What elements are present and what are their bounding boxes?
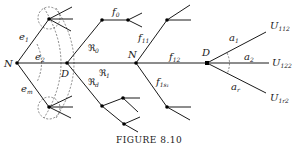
node-f0 bbox=[126, 18, 130, 22]
label-N-left: N bbox=[3, 58, 14, 69]
node-D-left bbox=[65, 61, 69, 65]
label-U1r2: U1r2 bbox=[270, 92, 289, 104]
tree-diagram: N D N D e1 e2 em ℜ0 ℜ1 ℜd f0 f11 f12 f1s… bbox=[0, 0, 292, 147]
label-Rd: ℜd bbox=[88, 77, 99, 88]
label-f12: f12 bbox=[168, 51, 181, 63]
node-N-mid bbox=[134, 61, 138, 65]
label-a1: a1 bbox=[229, 32, 239, 44]
node-Rd bbox=[100, 104, 104, 108]
label-U112: U112 bbox=[270, 20, 290, 32]
label-D-left: D bbox=[60, 68, 69, 79]
node-D-right bbox=[205, 61, 209, 65]
edges bbox=[17, 5, 269, 132]
label-D-right: D bbox=[201, 47, 210, 58]
label-N-mid: N bbox=[127, 49, 138, 60]
node-R0 bbox=[100, 18, 104, 22]
figure-caption: FIGURE 8.10 bbox=[116, 135, 182, 145]
label-R1: ℜ1 bbox=[99, 68, 110, 79]
label-R0: ℜ0 bbox=[88, 43, 99, 54]
label-e1: e1 bbox=[19, 31, 29, 43]
node-bottom bbox=[47, 105, 51, 109]
node-N-left bbox=[15, 61, 19, 65]
label-f1s1: f1s₁ bbox=[155, 76, 169, 88]
node-Rd-a bbox=[121, 96, 125, 100]
label-f11: f11 bbox=[137, 32, 149, 44]
label-U122: U122 bbox=[272, 57, 292, 69]
label-f0: f0 bbox=[111, 6, 120, 18]
node-Rd-b bbox=[122, 122, 126, 126]
node-f1s1 bbox=[165, 105, 169, 109]
node-top bbox=[47, 17, 51, 21]
nodes bbox=[15, 17, 209, 126]
label-ar: ar bbox=[231, 81, 241, 93]
label-em: em bbox=[21, 83, 33, 95]
node-f11 bbox=[165, 18, 169, 22]
label-a2: a2 bbox=[244, 51, 254, 63]
label-e2: e2 bbox=[35, 51, 45, 63]
